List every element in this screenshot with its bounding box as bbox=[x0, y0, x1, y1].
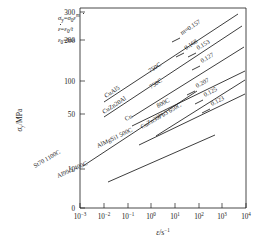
label-cuzn20al-temp: 750C bbox=[148, 77, 163, 90]
curve-labels-group: CuAl5 750C CuZn20Al 750C Cu 800C CuZn39P… bbox=[32, 61, 182, 179]
x-ticklabel-4: 100 bbox=[146, 211, 156, 221]
leader-0153 bbox=[188, 53, 196, 57]
label-cu: Cu bbox=[123, 112, 134, 122]
formula-line-2: ε=ε0/t bbox=[58, 25, 73, 34]
x-ticklabel-5: 101 bbox=[170, 211, 180, 221]
epsilon-dot-1 bbox=[83, 13, 84, 14]
m-values-group: m=0.157 0.168 0.153 0.127 0.207 0.125 0.… bbox=[179, 18, 225, 107]
x-ticks-group: 10−3 10−2 10−1 100 101 102 103 104 bbox=[74, 203, 252, 221]
x-ticklabel-7: 103 bbox=[217, 211, 227, 221]
x-axis-title: ε/s−1 bbox=[156, 227, 170, 237]
y-axis-title: σy/MPa bbox=[15, 108, 25, 131]
m-value-0207: 0.207 bbox=[194, 76, 210, 89]
x-ticklabel-2: 10−2 bbox=[98, 211, 111, 221]
line-st70 bbox=[83, 91, 197, 166]
chart-svg: 300 200 100 50 10 0 10−3 10−2 10−1 100 1… bbox=[0, 0, 256, 245]
x-ticklabel-1: 10−3 bbox=[74, 211, 87, 221]
epsilon-dot-2 bbox=[60, 24, 61, 25]
figure-container: 300 200 100 50 10 0 10−3 10−2 10−1 100 1… bbox=[0, 0, 256, 245]
m-value-0125: 0.125 bbox=[202, 85, 218, 98]
line-cual5 bbox=[104, 14, 238, 102]
x-ticklabel-8: 104 bbox=[241, 211, 251, 221]
x-ticklabel-3: 10−1 bbox=[122, 211, 135, 221]
leader-0125 bbox=[195, 100, 203, 104]
x-ticklabel-6: 102 bbox=[194, 211, 204, 221]
m-value-0157: m=0.157 bbox=[179, 18, 202, 36]
label-st70: St70 1100C bbox=[32, 148, 61, 169]
formula-line-1: σy=σ0εm bbox=[58, 12, 80, 23]
line-m153 bbox=[132, 47, 244, 117]
y-ticklabel-50: 50 bbox=[68, 111, 76, 119]
line-al995 bbox=[108, 135, 215, 182]
label-cual5-temp: 750C bbox=[147, 61, 162, 74]
y-ticklabel-100: 100 bbox=[64, 78, 75, 86]
leader-0127 bbox=[192, 66, 200, 70]
y-ticklabel-0: 0 bbox=[71, 205, 75, 213]
m-value-0153: 0.153 bbox=[195, 38, 211, 51]
leader-0157 bbox=[172, 38, 180, 42]
